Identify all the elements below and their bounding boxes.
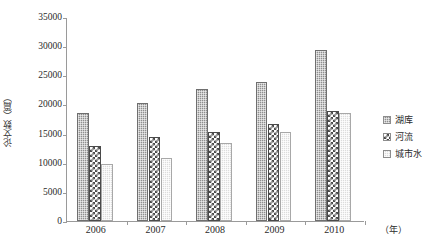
bar[interactable] (137, 103, 149, 221)
x-axis-tick-label: 2006 (66, 224, 126, 236)
legend-item[interactable]: 河流 (383, 128, 438, 145)
chart-legend: 湖库河流城市水 (383, 111, 438, 162)
y-axis-tick-label: 25000 (38, 71, 62, 81)
bar[interactable] (339, 113, 351, 221)
plot-area (66, 18, 364, 222)
bar-group (315, 17, 351, 221)
y-axis-tick-mark (63, 76, 67, 77)
bar-group (77, 17, 113, 221)
x-axis-tick-label: 2009 (245, 224, 305, 236)
bar[interactable] (161, 158, 173, 221)
bar-group (256, 17, 292, 221)
bar[interactable] (77, 113, 89, 221)
bar[interactable] (256, 82, 268, 221)
y-axis-tick-mark (63, 47, 67, 48)
legend-label: 湖库 (395, 115, 413, 125)
y-axis-tick-mark (63, 193, 67, 194)
legend-item[interactable]: 城市水 (383, 145, 438, 162)
y-axis-tick-mark (63, 135, 67, 136)
x-axis-tick-mark (365, 221, 366, 225)
y-axis-tick-label: 5000 (43, 188, 62, 198)
bar[interactable] (89, 146, 101, 221)
bar-group (196, 17, 232, 221)
bar-chart: 论文数（篇） 050001000015000200002500030000350… (0, 0, 438, 249)
x-axis-tick-label: 2010 (304, 224, 364, 236)
bar[interactable] (196, 89, 208, 221)
x-axis-tick-label: 2007 (126, 224, 186, 236)
bar[interactable] (101, 164, 113, 221)
y-axis-tick-labels: 05000100001500020000250003000035000 (22, 0, 64, 249)
y-axis-tick-mark (63, 105, 67, 106)
checkerboard-swatch (383, 133, 391, 141)
bar[interactable] (220, 143, 232, 221)
y-axis-title: 论文数（篇） (2, 78, 18, 162)
y-axis-tick-label: 30000 (38, 42, 62, 52)
bar[interactable] (327, 111, 339, 221)
y-axis-tick-mark (63, 18, 67, 19)
bar[interactable] (280, 132, 292, 221)
y-axis-tick-mark (63, 164, 67, 165)
legend-label: 河流 (395, 132, 413, 142)
y-axis-tick-label: 0 (57, 217, 62, 227)
y-axis-tick-label: 35000 (38, 13, 62, 23)
y-axis-tick-mark (63, 222, 67, 223)
bar-group (137, 17, 173, 221)
legend-item[interactable]: 湖库 (383, 111, 438, 128)
legend-label: 城市水 (395, 149, 422, 159)
light-dotted-swatch (383, 150, 391, 158)
bar[interactable] (208, 132, 220, 221)
bar[interactable] (268, 124, 280, 221)
dark-dotted-swatch (383, 116, 391, 124)
y-axis-tick-label: 10000 (38, 159, 62, 169)
x-axis-tick-labels: 20062007200820092010 (66, 224, 364, 240)
x-axis-tick-label: 2008 (185, 224, 245, 236)
y-axis-tick-label: 20000 (38, 100, 62, 110)
y-axis-tick-label: 15000 (38, 130, 62, 140)
bar[interactable] (149, 137, 161, 222)
x-axis-unit-label: （年） (380, 224, 407, 236)
bar[interactable] (315, 50, 327, 221)
